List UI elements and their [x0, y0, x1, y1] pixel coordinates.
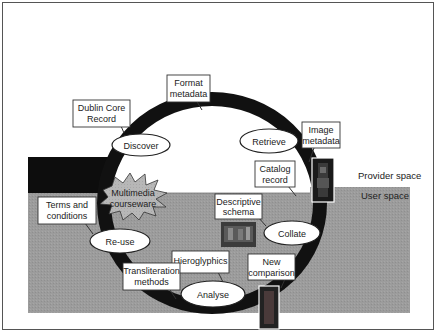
svg-text:Re-use: Re-use — [105, 237, 134, 247]
svg-text:Catalog: Catalog — [259, 164, 290, 174]
stage-analyse: Analyse — [181, 281, 245, 307]
svg-text:record: record — [262, 175, 288, 185]
stage-re-use: Re-use — [90, 229, 150, 253]
stage-discover: Discover — [112, 134, 170, 156]
svg-text:Hieroglyphics: Hieroglyphics — [173, 256, 228, 266]
callout-dublin-core-record: Dublin Core Record — [73, 100, 130, 133]
stage-collate: Collate — [264, 221, 320, 245]
image-3 — [259, 286, 279, 329]
svg-text:Descriptive: Descriptive — [216, 197, 261, 207]
svg-text:Analyse: Analyse — [197, 290, 229, 300]
svg-text:metadata: metadata — [170, 89, 208, 99]
burst-line-1: Multimedia — [111, 188, 155, 198]
svg-text:comparison: comparison — [248, 268, 295, 278]
svg-text:Collate: Collate — [278, 229, 306, 239]
provider-block — [28, 157, 108, 193]
image-1 — [312, 158, 334, 202]
svg-text:New: New — [262, 257, 281, 267]
callout-catalog-record: Catalog record — [255, 161, 296, 196]
svg-text:Image: Image — [308, 125, 333, 135]
lifecycle-diagram: Provider space User space Multimedia cou… — [0, 0, 439, 336]
user-space-label: User space — [361, 190, 409, 201]
burst-line-2: courseware — [110, 199, 157, 209]
provider-space-label: Provider space — [358, 170, 421, 181]
svg-text:conditions: conditions — [47, 211, 88, 221]
svg-text:Retrieve: Retrieve — [252, 137, 286, 147]
svg-text:Record: Record — [87, 114, 116, 124]
svg-text:schema: schema — [223, 207, 255, 217]
svg-text:methods: methods — [134, 277, 169, 287]
image-2 — [221, 222, 256, 247]
svg-text:Transliteration: Transliteration — [123, 266, 180, 276]
svg-text:Format: Format — [174, 78, 203, 88]
svg-text:metadata: metadata — [302, 136, 340, 146]
svg-text:Dublin Core: Dublin Core — [78, 103, 126, 113]
stage-retrieve: Retrieve — [240, 129, 298, 153]
svg-text:Discover: Discover — [123, 141, 158, 151]
svg-text:Terms and: Terms and — [46, 200, 88, 210]
